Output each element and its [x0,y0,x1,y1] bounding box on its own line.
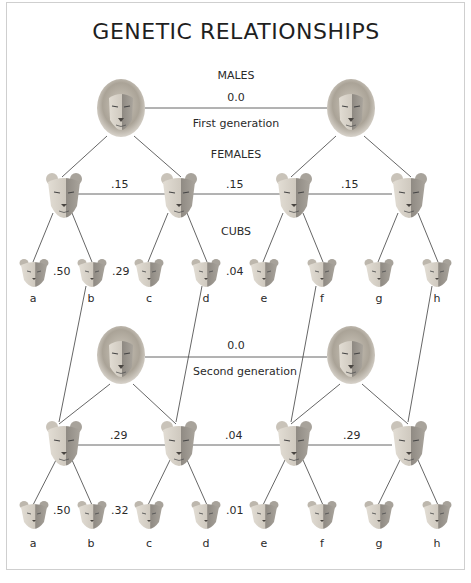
second-generation-label: Second generation [193,366,297,377]
cub-label: a [30,538,37,549]
cub-label: e [261,538,268,549]
cub-label: a [30,293,37,304]
lion-cub-head-icon [422,500,452,530]
lion-cub-head-icon [422,258,452,288]
gen2-cub-relatedness: .32 [111,505,129,516]
gen1-female-relatedness: .15 [341,179,359,190]
male-lion-head-icon [96,325,146,387]
cub-label: g [376,538,383,549]
gen2-female-relatedness: .29 [343,430,361,441]
lion-cub-head-icon [307,500,337,530]
cub-label: c [146,293,152,304]
lion-cub-head-icon [191,500,221,530]
gen1-female-relatedness: .15 [111,179,129,190]
gen2-males-relatedness: 0.0 [227,340,245,351]
cubs-label: CUBS [221,226,251,237]
lioness-head-icon [274,420,314,468]
diagram-title: GENETIC RELATIONSHIPS [92,19,379,44]
gen1-cub-relatedness: .50 [53,266,71,277]
male-lion-head-icon [326,325,376,387]
cub-label: f [320,538,324,549]
lion-cub-head-icon [249,258,279,288]
cub-label: h [434,538,441,549]
connector-lines [0,0,471,583]
gen2-female-relatedness: .04 [225,430,243,441]
cub-label: e [261,293,268,304]
lion-cub-head-icon [249,500,279,530]
cub-label: h [434,293,441,304]
lion-cub-head-icon [77,500,107,530]
gen2-cub-relatedness: .50 [53,505,71,516]
cub-label: b [88,293,95,304]
lioness-head-icon [44,420,84,468]
gen1-males-relatedness: 0.0 [227,92,245,103]
lion-cub-head-icon [134,258,164,288]
lioness-head-icon [159,172,199,220]
first-generation-label: First generation [193,118,279,129]
gen1-female-relatedness: .15 [226,179,244,190]
cub-label: c [146,538,152,549]
lion-cub-head-icon [364,500,394,530]
lioness-head-icon [159,420,199,468]
male-lion-head-icon [96,78,146,140]
gen1-cub-relatedness: .29 [112,266,130,277]
lion-cub-head-icon [134,500,164,530]
gen2-cub-relatedness: .01 [226,505,244,516]
lion-cub-head-icon [19,500,49,530]
lion-cub-head-icon [77,258,107,288]
cub-label: d [203,293,210,304]
lioness-head-icon [389,172,429,220]
cub-label: d [203,538,210,549]
females-label: FEMALES [211,149,261,160]
cub-label: f [320,293,324,304]
lion-cub-head-icon [19,258,49,288]
cub-label: g [376,293,383,304]
cub-label: b [88,538,95,549]
lioness-head-icon [274,172,314,220]
lioness-head-icon [389,420,429,468]
males-label: MALES [217,70,254,81]
lion-cub-head-icon [191,258,221,288]
lion-cub-head-icon [307,258,337,288]
gen2-female-relatedness: .29 [110,430,128,441]
lion-cub-head-icon [364,258,394,288]
gen1-cub-relatedness: .04 [226,266,244,277]
lioness-head-icon [44,172,84,220]
male-lion-head-icon [326,78,376,140]
